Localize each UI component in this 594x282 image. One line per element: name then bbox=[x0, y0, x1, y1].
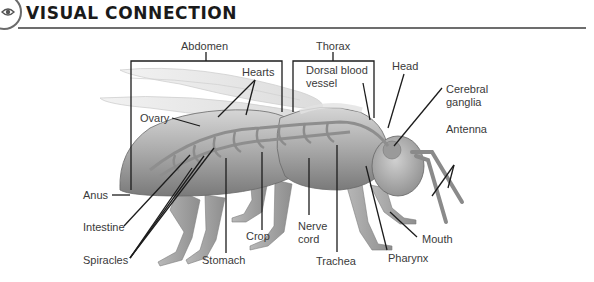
label-abdomen: Abdomen bbox=[181, 40, 228, 53]
label-head: Head bbox=[392, 60, 418, 73]
label-dorsal-blood-vessel: Dorsal blood vessel bbox=[306, 64, 368, 89]
label-pharynx: Pharynx bbox=[388, 252, 428, 265]
label-mouth: Mouth bbox=[422, 233, 453, 246]
thorax-body bbox=[277, 107, 388, 190]
label-hearts: Hearts bbox=[242, 66, 274, 79]
label-anus: Anus bbox=[83, 189, 108, 202]
insect-anatomy-diagram bbox=[0, 0, 594, 282]
label-spiracles: Spiracles bbox=[83, 254, 128, 267]
label-nerve-cord: Nerve cord bbox=[298, 220, 327, 245]
label-stomach: Stomach bbox=[202, 254, 245, 267]
label-crop: Crop bbox=[246, 230, 270, 243]
label-antenna: Antenna bbox=[446, 123, 487, 136]
label-thorax: Thorax bbox=[316, 40, 350, 53]
label-trachea: Trachea bbox=[316, 255, 356, 268]
label-ovary: Ovary bbox=[140, 112, 169, 125]
label-intestine: Intestine bbox=[83, 221, 125, 234]
label-cerebral-ganglia: Cerebral ganglia bbox=[446, 83, 488, 108]
